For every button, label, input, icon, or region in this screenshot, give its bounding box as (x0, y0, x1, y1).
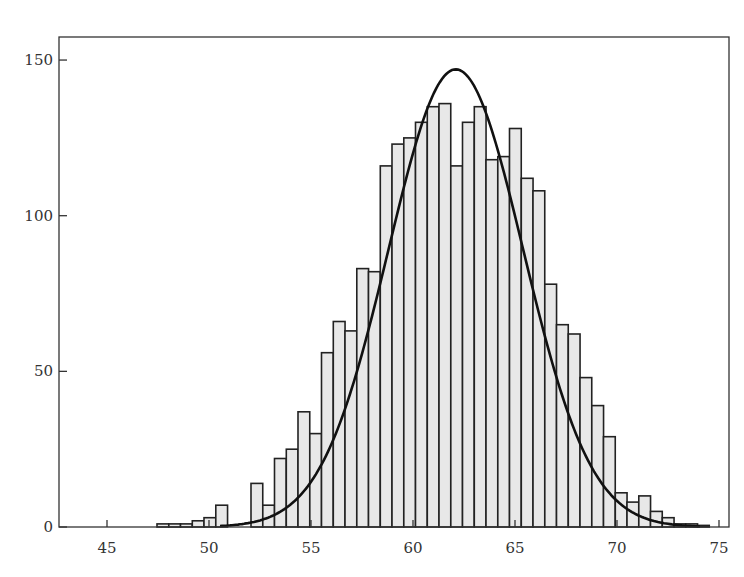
histogram-bar (557, 325, 569, 527)
histogram-bar (580, 378, 592, 527)
histogram-bar (521, 178, 533, 527)
histogram-bar (204, 518, 216, 527)
histogram-bar (416, 122, 428, 527)
y-tick-label: 0 (43, 518, 53, 536)
histogram-bar (392, 144, 404, 527)
histogram-bar (510, 129, 522, 528)
x-tick-label: 60 (403, 539, 422, 557)
y-tick-label: 50 (34, 362, 53, 380)
histogram-bar (345, 331, 357, 527)
histogram-bar (298, 412, 310, 527)
x-tick-label: 75 (709, 539, 728, 557)
x-tick-label: 65 (505, 539, 524, 557)
x-tick-label: 70 (607, 539, 626, 557)
histogram-bar (451, 166, 463, 527)
histogram-bars (157, 104, 709, 527)
x-tick-label: 55 (301, 539, 320, 557)
histogram-bar (439, 104, 451, 527)
histogram-bar (604, 437, 616, 527)
histogram-bar (533, 191, 545, 527)
histogram-bar (639, 496, 651, 527)
histogram-bar (592, 406, 604, 527)
histogram-bar (216, 505, 228, 527)
histogram-bar (427, 107, 439, 527)
y-tick-label: 150 (24, 51, 53, 69)
x-tick-label: 50 (199, 539, 218, 557)
histogram-bar (380, 166, 392, 527)
histogram-bar (474, 107, 486, 527)
histogram-bar (545, 284, 557, 527)
histogram-bar (463, 122, 475, 527)
y-tick-label: 100 (24, 207, 53, 225)
histogram-bar (498, 157, 510, 527)
histogram-bar (286, 449, 298, 527)
histogram-bar (322, 353, 334, 527)
histogram-bar (404, 138, 416, 527)
histogram-bar (275, 459, 287, 528)
y-axis: 050100150 (24, 51, 67, 536)
x-tick-label: 45 (97, 539, 116, 557)
histogram-chart: 050100150 45505560657075 (0, 0, 744, 577)
histogram-bar (357, 269, 369, 527)
histogram-bar (192, 521, 204, 527)
histogram-bar (486, 160, 498, 527)
